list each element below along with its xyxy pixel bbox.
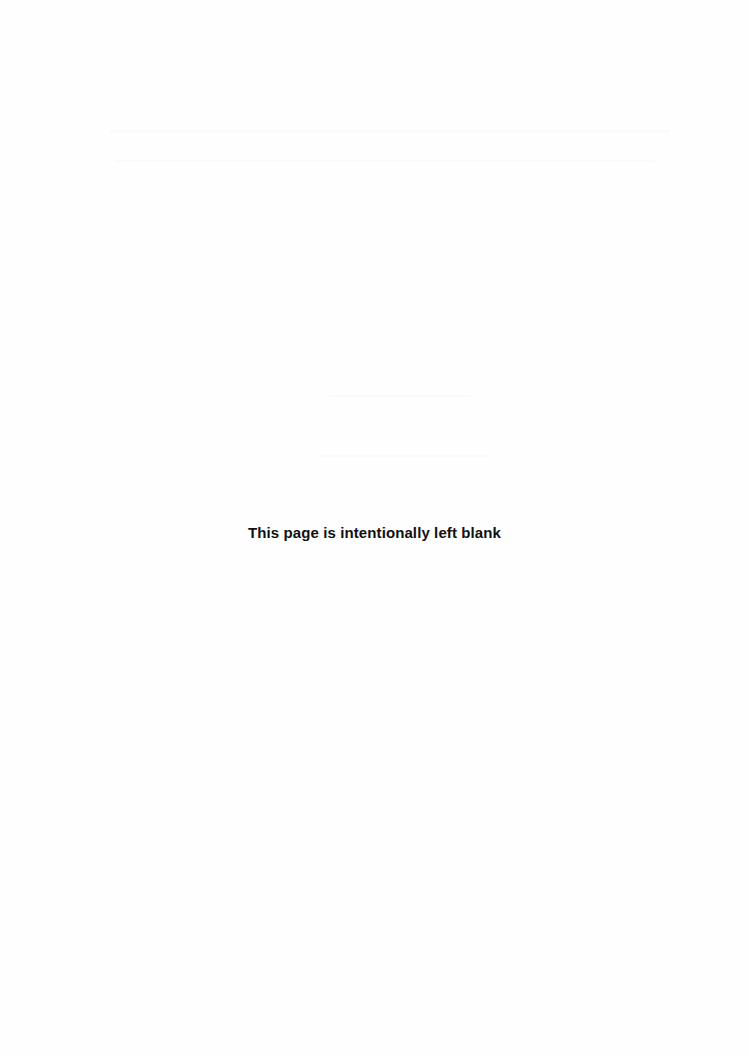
scan-bleed-through [115,160,655,162]
scan-bleed-through [320,455,490,457]
blank-page-notice: This page is intentionally left blank [0,524,749,541]
scan-bleed-through [330,395,470,397]
document-page: This page is intentionally left blank [0,0,749,1056]
scan-bleed-through [110,130,670,133]
